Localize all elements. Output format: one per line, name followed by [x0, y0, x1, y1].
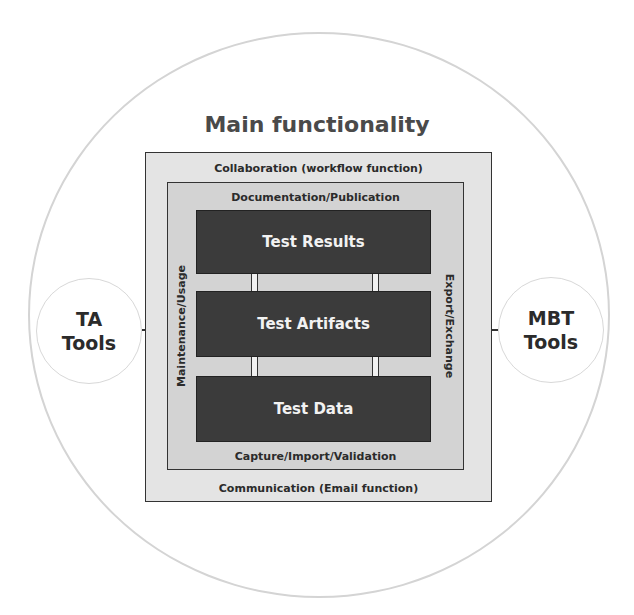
test-results-box: Test Results — [196, 210, 431, 274]
test-data-label: Test Data — [274, 400, 354, 418]
link-results-artifacts-left — [251, 273, 258, 292]
mbt-tools-circle: MBT Tools — [498, 277, 604, 383]
documentation-label: Documentation/Publication — [167, 191, 464, 204]
communication-label: Communication (Email function) — [145, 482, 492, 495]
link-results-artifacts-right — [372, 273, 379, 292]
link-artifacts-data-right — [372, 356, 379, 377]
ta-tools-circle: TA Tools — [36, 278, 142, 384]
maintenance-label: Maintenance/Usage — [175, 265, 188, 387]
export-label: Export/Exchange — [443, 274, 456, 378]
ta-tools-label: TA Tools — [62, 307, 116, 355]
test-artifacts-label: Test Artifacts — [257, 315, 370, 333]
link-artifacts-data-left — [251, 356, 258, 377]
test-results-label: Test Results — [262, 233, 364, 251]
test-data-box: Test Data — [196, 376, 431, 442]
capture-label: Capture/Import/Validation — [167, 450, 464, 463]
mbt-tools-connector — [491, 329, 498, 331]
collaboration-label: Collaboration (workflow function) — [145, 162, 492, 175]
diagram-title: Main functionality — [0, 112, 634, 137]
mbt-tools-label: MBT Tools — [524, 306, 578, 354]
test-artifacts-box: Test Artifacts — [196, 291, 431, 357]
